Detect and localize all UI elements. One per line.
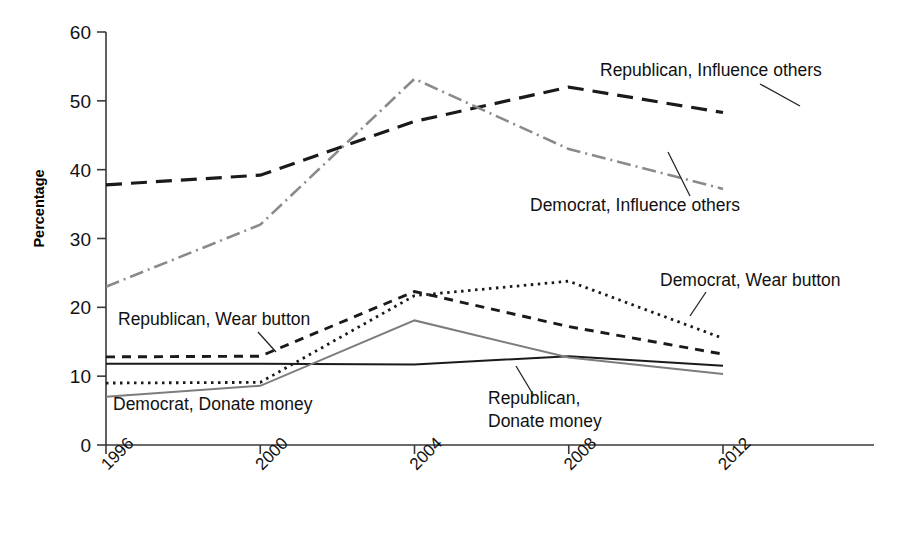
series-line-0 [106, 87, 723, 185]
series-line-1 [106, 79, 723, 287]
annotation-rep-wear: Republican, Wear button [118, 309, 310, 329]
annotation-rep-donate-1: Republican, [488, 388, 580, 408]
leader-dem-wear [690, 292, 706, 316]
leader-rep-influence [760, 84, 800, 106]
y-axis-tick-label: 20 [70, 297, 91, 318]
series-line-5 [106, 320, 723, 396]
axis-lines [106, 32, 874, 445]
annotation-dem-wear: Democrat, Wear button [660, 270, 841, 290]
leader-dem-influence [668, 152, 690, 196]
y-axis-title: Percentage [31, 169, 47, 247]
y-axis-tick-label: 60 [70, 22, 91, 43]
y-axis-tick-label: 10 [70, 366, 91, 387]
chart-series [106, 79, 723, 397]
leader-rep-wear [258, 332, 276, 352]
chart-annotations: Republican, Influence othersDemocrat, In… [113, 60, 841, 431]
x-axis-tick-label: 2012 [714, 434, 754, 474]
annotation-rep-donate-2: Donate money [488, 411, 602, 431]
y-axis-title-group: Percentage [31, 169, 47, 247]
x-axis-tick-label: 1996 [97, 434, 137, 474]
annotation-rep-influence: Republican, Influence others [600, 60, 822, 80]
annotation-dem-influence: Democrat, Influence others [530, 195, 740, 215]
series-line-2 [106, 281, 723, 383]
x-axis-tick-label: 2004 [406, 434, 446, 474]
x-axis-tick-label: 2008 [560, 434, 600, 474]
y-axis-tick-label: 40 [70, 160, 91, 181]
annotation-dem-donate: Democrat, Donate money [113, 394, 313, 414]
line-chart: 010203040506019962000200420082012 Republ… [0, 0, 912, 544]
y-axis-tick-label: 30 [70, 229, 91, 250]
x-axis-tick-label: 2000 [252, 434, 292, 474]
chart-canvas: 010203040506019962000200420082012 Republ… [0, 0, 912, 544]
y-axis-tick-label: 0 [80, 435, 91, 456]
y-axis-tick-label: 50 [70, 91, 91, 112]
